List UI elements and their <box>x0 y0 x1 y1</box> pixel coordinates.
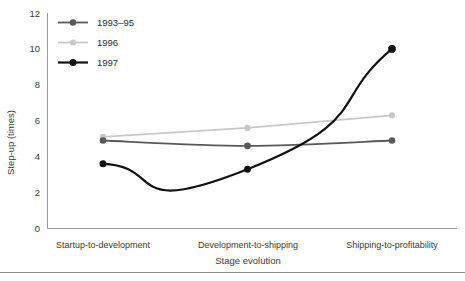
legend-swatch-marker-1996 <box>70 39 76 45</box>
legend-label-1997: 1997 <box>97 57 118 68</box>
y-tick-label-12: 12 <box>29 8 40 19</box>
legend-swatch-marker-1997 <box>69 59 76 66</box>
y-tick-label-6: 6 <box>35 115 40 126</box>
legend-item-1996[interactable]: 1996 <box>58 37 118 48</box>
y-tick-label-10: 10 <box>29 43 40 54</box>
x-category-label-3: Shipping-to-profitability <box>346 240 438 250</box>
data-point-1993-95-development-to-shipping <box>244 143 251 150</box>
legend-item-1997[interactable]: 1997 <box>58 57 118 68</box>
y-tick-label-2: 2 <box>35 187 40 198</box>
legend-item-1993-95[interactable]: 1993–95 <box>58 17 134 28</box>
data-point-1993-95-startup-to-development <box>100 137 107 144</box>
line-chart: 12 10 8 6 4 2 0 Step-up (times) Startup-… <box>0 0 465 281</box>
legend-swatch-marker-1993-95 <box>70 19 77 26</box>
y-axis-title: Step-up (times) <box>5 110 16 175</box>
y-tick-label-0: 0 <box>35 223 40 234</box>
y-tick-label-4: 4 <box>35 151 40 162</box>
data-point-1997-shipping-to-profitability <box>388 45 396 53</box>
x-axis-title: Stage evolution <box>215 255 281 266</box>
data-point-1997-startup-to-development <box>100 160 107 167</box>
data-point-1993-95-shipping-to-profitability <box>389 137 396 144</box>
chart-container: 12 10 8 6 4 2 0 Step-up (times) Startup-… <box>0 0 465 281</box>
footer-divider <box>0 272 465 273</box>
legend-label-1993-95: 1993–95 <box>97 17 134 28</box>
x-category-label-1: Startup-to-development <box>56 240 151 250</box>
x-category-label-2: Development-to-shipping <box>198 240 298 250</box>
y-tick-label-8: 8 <box>35 79 40 90</box>
chart-legend: 1993–95 1996 1997 <box>58 17 134 68</box>
data-point-1997-development-to-shipping <box>244 166 251 173</box>
data-point-1996-shipping-to-profitability <box>389 112 395 118</box>
data-point-1996-development-to-shipping <box>244 125 250 131</box>
legend-label-1996: 1996 <box>97 37 118 48</box>
